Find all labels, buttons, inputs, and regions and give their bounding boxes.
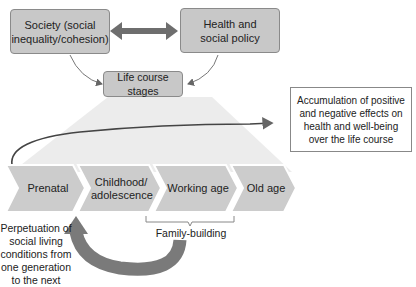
- society-label: Society (social inequality/cohesion): [11, 18, 109, 46]
- accumulation-label: Accumulation of positive and negative ef…: [297, 94, 405, 146]
- stage-label: Childhood/ adolescence: [91, 176, 151, 202]
- stage-label: Prenatal: [28, 182, 69, 195]
- life-course-label: Life course stages: [104, 70, 182, 98]
- stage-working-age: Working age: [164, 165, 232, 212]
- perpetuation-label: Perpetuation of social living conditions…: [0, 222, 72, 287]
- life-course-box: Life course stages: [103, 71, 183, 97]
- stage-prenatal: Prenatal: [18, 165, 78, 212]
- health-policy-box: Health and social policy: [180, 8, 280, 53]
- bidirectional-arrow-icon: [110, 22, 178, 40]
- family-building-bracket: [146, 216, 234, 226]
- stage-label: Old age: [247, 182, 286, 195]
- accumulation-box: Accumulation of positive and negative ef…: [290, 87, 412, 152]
- stage-label: Working age: [167, 182, 229, 195]
- health-policy-label: Health and social policy: [195, 17, 265, 45]
- fan-shape: [12, 97, 292, 172]
- family-building-label: Family-building: [148, 227, 234, 240]
- society-box: Society (social inequality/cohesion): [10, 9, 110, 54]
- arrow-society-to-life-course: [70, 55, 102, 84]
- arrow-policy-to-life-course: [188, 55, 218, 84]
- stage-old-age: Old age: [240, 165, 292, 212]
- stage-childhood: Childhood/ adolescence: [90, 165, 152, 212]
